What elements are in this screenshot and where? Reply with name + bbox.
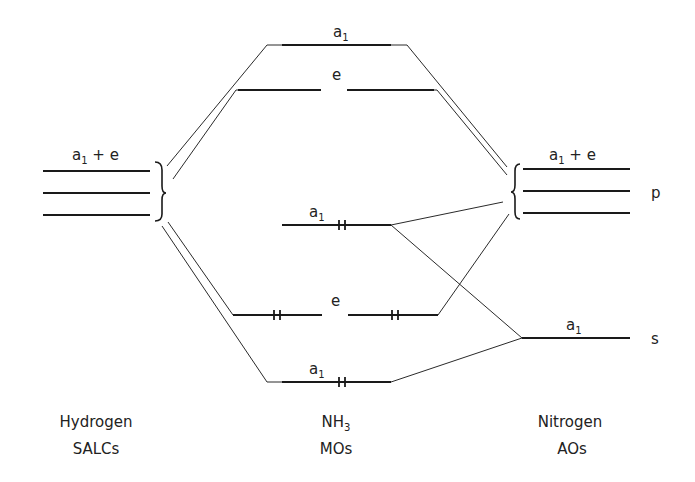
corr-line bbox=[391, 202, 503, 225]
mo-e-antibonding-label: e bbox=[332, 66, 341, 84]
mo-a1-bonding-label: a1 bbox=[309, 360, 325, 380]
nh3-mo-levels: a1 e a1 e a1 bbox=[233, 23, 438, 387]
mo-a1-antibonding-label: a1 bbox=[333, 23, 349, 43]
corr-line bbox=[391, 338, 522, 382]
column-captions: Hydrogen SALCs NH3 MOs Nitrogen AOs bbox=[60, 413, 603, 458]
caption-nitrogen: Nitrogen bbox=[538, 413, 603, 431]
corr-line bbox=[438, 214, 509, 315]
corr-line bbox=[168, 222, 233, 315]
nitrogen-p-levels: a1 + e p bbox=[511, 146, 661, 219]
corr-line bbox=[162, 226, 282, 382]
hydrogen-salc-levels: a1 + e bbox=[43, 146, 166, 221]
right-brace bbox=[511, 164, 520, 219]
s-orbital-label: s bbox=[651, 330, 659, 348]
nitrogen-s-symmetry-label: a1 bbox=[566, 316, 582, 336]
corr-line bbox=[391, 45, 507, 167]
corr-line bbox=[173, 90, 238, 179]
nitrogen-p-symmetry-label: a1 + e bbox=[549, 146, 596, 166]
caption-nh3: NH3 bbox=[322, 413, 351, 433]
hydrogen-salc-label: a1 + e bbox=[72, 146, 119, 166]
mo-e-bonding-label: e bbox=[331, 292, 340, 310]
correlation-lines bbox=[162, 45, 522, 382]
corr-line bbox=[391, 225, 522, 338]
nitrogen-s-level: a1 s bbox=[522, 316, 659, 348]
mo-diagram: a1 + e a1 + e p a1 s a1 e a1 bbox=[0, 0, 695, 482]
caption-aos: AOs bbox=[557, 440, 587, 458]
p-orbital-label: p bbox=[651, 184, 661, 202]
left-brace bbox=[155, 162, 166, 221]
caption-mos: MOs bbox=[320, 440, 353, 458]
corr-line bbox=[434, 90, 507, 175]
caption-salcs: SALCs bbox=[73, 440, 120, 458]
caption-hydrogen: Hydrogen bbox=[60, 413, 133, 431]
mo-a1-nonbonding-label: a1 bbox=[309, 203, 325, 223]
